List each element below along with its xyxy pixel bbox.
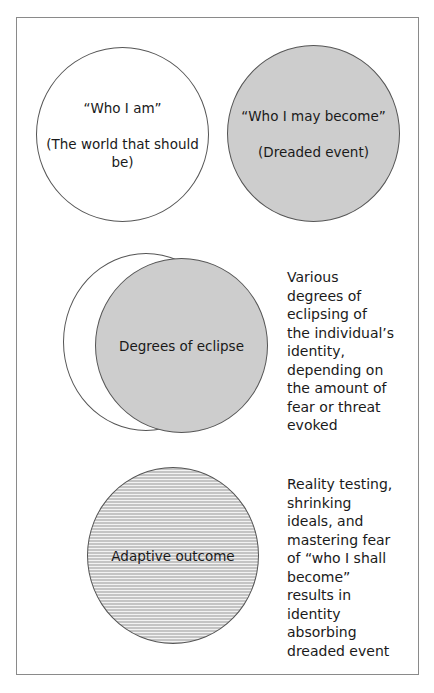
who-i-may-become-label: “Who I may become” (Dreaded event) bbox=[241, 89, 385, 179]
eclipse-front-circle: Degrees of eclipse bbox=[95, 258, 268, 433]
who-i-may-become-circle: “Who I may become” (Dreaded event) bbox=[227, 45, 400, 222]
who-i-may-become-line1: “Who I may become” bbox=[241, 107, 385, 125]
who-i-am-label: “Who I am” (The world that should be) bbox=[37, 81, 208, 189]
eclipse-description: Various degrees of eclipsing of the indi… bbox=[287, 268, 394, 435]
who-i-am-circle: “Who I am” (The world that should be) bbox=[36, 47, 209, 222]
who-i-may-become-line2: (Dreaded event) bbox=[241, 143, 385, 161]
who-i-am-line1: “Who I am” bbox=[37, 99, 208, 117]
degrees-of-eclipse-label: Degrees of eclipse bbox=[119, 337, 244, 355]
adaptive-outcome-description: Reality testing, shrinking ideals, and m… bbox=[287, 475, 392, 660]
who-i-am-line2: (The world that should be) bbox=[37, 135, 208, 171]
adaptive-outcome-label: Adaptive outcome bbox=[111, 547, 234, 565]
adaptive-outcome-circle: Adaptive outcome bbox=[87, 467, 259, 644]
